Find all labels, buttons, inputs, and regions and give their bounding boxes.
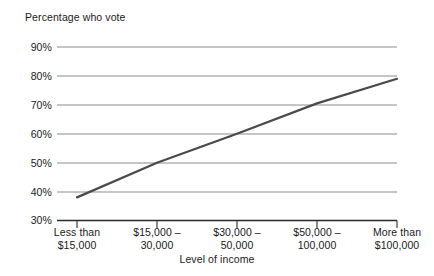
x-tick-label-5: More than $100,000 <box>349 226 434 252</box>
chart-container: Percentage who vote 90% 80% 70% 60% 50% … <box>0 0 434 276</box>
x-axis-title: Level of income <box>0 253 434 265</box>
x-tick-label-5-line1: More than <box>349 226 434 239</box>
x-tick-label-5-line2: $100,000 <box>349 239 434 252</box>
data-series-line <box>77 79 397 198</box>
gridlines <box>57 47 397 192</box>
